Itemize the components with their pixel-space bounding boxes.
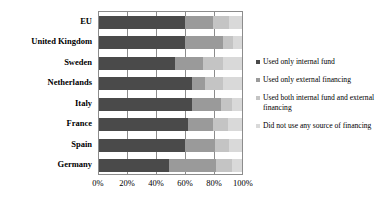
- legend-swatch-icon: [256, 78, 260, 82]
- bar-row: [99, 77, 242, 90]
- bar-row: [99, 98, 242, 111]
- y-axis-tick-label: Netherlands: [0, 78, 92, 87]
- bar-row: [99, 118, 242, 131]
- x-axis-tick-label: 60%: [177, 178, 193, 188]
- bar-segment: [99, 36, 185, 49]
- y-axis-tick-label: EU: [0, 17, 92, 26]
- legend: Used only internal fundUsed only externa…: [256, 57, 384, 139]
- legend-label: Used only external financing: [263, 75, 351, 84]
- bar-segment: [99, 98, 192, 111]
- bar-segment: [188, 118, 214, 131]
- bar-segment: [213, 16, 229, 29]
- y-axis-tick-label: Italy: [0, 99, 92, 108]
- bar-segment: [221, 98, 232, 111]
- legend-item: Used only external financing: [256, 75, 384, 84]
- bar-row: [99, 159, 242, 172]
- x-axis: 0%20%40%60%80%100%: [98, 178, 243, 192]
- legend-swatch-icon: [256, 96, 260, 100]
- x-axis-tick-label: 40%: [148, 178, 164, 188]
- legend-label: Used both internal fund and external fin…: [263, 93, 384, 111]
- bar-segment: [99, 159, 169, 172]
- bar-segment: [99, 139, 185, 152]
- bar-segment: [192, 98, 221, 111]
- bar-row: [99, 139, 242, 152]
- stacked-bar-chart: EUUnited KingdomSwedenNetherlandsItalyFr…: [0, 0, 386, 217]
- x-axis-tick-label: 0%: [92, 178, 103, 188]
- bar-segment: [185, 36, 224, 49]
- bar-segment: [175, 57, 204, 70]
- bar-segment: [99, 77, 192, 90]
- bar-segment: [232, 159, 242, 172]
- bar-segment: [99, 118, 188, 131]
- bar-segment: [229, 139, 242, 152]
- y-axis-tick-label: United Kingdom: [0, 37, 92, 46]
- bar-row: [99, 16, 242, 29]
- bar-row: [99, 57, 242, 70]
- legend-label: Used only internal fund: [263, 57, 335, 66]
- y-axis-tick-label: Sweden: [0, 58, 92, 67]
- bar-segment: [223, 77, 242, 90]
- bar-segment: [228, 118, 242, 131]
- plot-area: [98, 11, 243, 175]
- legend-item: Used only internal fund: [256, 57, 384, 66]
- bar-segment: [223, 57, 242, 70]
- bar-segment: [213, 118, 227, 131]
- bar-segment: [203, 57, 223, 70]
- bar-segment: [192, 77, 205, 90]
- x-axis-tick-label: 20%: [119, 178, 135, 188]
- bars-layer: [99, 12, 242, 174]
- bar-segment: [229, 16, 242, 29]
- legend-swatch-icon: [256, 60, 260, 64]
- bar-segment: [185, 16, 214, 29]
- bar-segment: [99, 16, 185, 29]
- legend-label: Did not use any source of financing: [263, 121, 371, 130]
- bar-segment: [216, 159, 232, 172]
- bar-segment: [215, 139, 229, 152]
- y-axis-tick-label: Germany: [0, 160, 92, 169]
- legend-item: Did not use any source of financing: [256, 121, 384, 130]
- bar-segment: [205, 77, 224, 90]
- y-axis-tick-label: France: [0, 119, 92, 128]
- bar-segment: [169, 159, 216, 172]
- bar-segment: [223, 36, 233, 49]
- y-axis: EUUnited KingdomSwedenNetherlandsItalyFr…: [0, 11, 95, 175]
- bar-segment: [99, 57, 175, 70]
- legend-item: Used both internal fund and external fin…: [256, 93, 384, 111]
- bar-segment: [232, 98, 242, 111]
- x-axis-tick-label: 100%: [233, 178, 253, 188]
- bar-segment: [185, 139, 215, 152]
- bar-segment: [233, 36, 242, 49]
- y-axis-tick-label: Spain: [0, 140, 92, 149]
- x-axis-tick-label: 80%: [206, 178, 222, 188]
- legend-swatch-icon: [256, 124, 260, 128]
- bar-row: [99, 36, 242, 49]
